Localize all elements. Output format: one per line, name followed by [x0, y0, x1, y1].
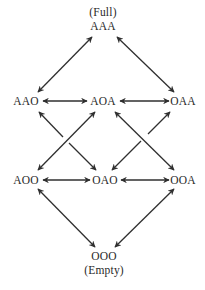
node-OOA: OOA	[170, 174, 196, 187]
full-caption: (Full)	[89, 6, 116, 19]
node-OAO: OAO	[92, 174, 118, 187]
edge-AOO-OOO	[38, 189, 95, 247]
state-lattice-diagram: (Full) AAA AAO AOA OAA AOO OAO OOA OOO (…	[0, 0, 205, 290]
node-OAA: OAA	[170, 95, 196, 108]
node-AOO: AOO	[13, 174, 39, 187]
edge-OAA-OAO	[148, 112, 170, 134]
edge-AOA-OOA	[115, 112, 174, 170]
empty-caption: (Empty)	[84, 264, 124, 277]
edges-layer	[0, 0, 205, 290]
node-OOO: OOO	[91, 250, 117, 263]
node-AAA: AAA	[90, 20, 116, 33]
edge-AAA-OAA	[117, 37, 174, 92]
node-AOA: AOA	[90, 95, 116, 108]
edge-AAA-AAO	[38, 37, 92, 92]
edge-OOA-OOO	[115, 189, 174, 247]
edge-AAO-OAO	[39, 112, 63, 137]
node-AAO: AAO	[13, 95, 39, 108]
